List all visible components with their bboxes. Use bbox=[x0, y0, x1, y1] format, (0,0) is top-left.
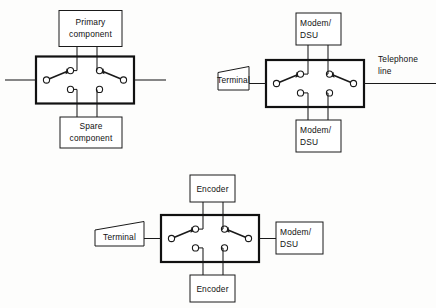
figure-container: Primary component bbox=[0, 0, 436, 308]
telephone-line-label-line1: Telephone bbox=[378, 54, 418, 64]
modem-dsu-top-label-line2: DSU bbox=[300, 30, 318, 40]
left-upper-contact-1 bbox=[67, 68, 73, 74]
diagram-encoder: Encoder Terminal Modem/ DSU bbox=[95, 175, 323, 302]
left-lower-contact-2 bbox=[297, 90, 303, 96]
left-lower-contact-1 bbox=[67, 86, 73, 92]
modem-dsu-top-label-line1: Modem/ bbox=[300, 18, 332, 28]
left-lower-contact-3 bbox=[192, 245, 198, 251]
spare-component-label-line2: component bbox=[70, 133, 113, 143]
left-switch-pivot-2 bbox=[273, 80, 279, 86]
right-switch-pivot-2 bbox=[350, 80, 356, 86]
right-switch-pivot-1 bbox=[120, 77, 126, 83]
transfer-switch-enclosure-3 bbox=[161, 215, 259, 262]
telephone-line-label-line2: line bbox=[378, 66, 392, 76]
modem-dsu-right-label-line2: DSU bbox=[280, 239, 298, 249]
diagram-primary-spare: Primary component bbox=[5, 11, 166, 149]
transfer-switch-enclosure-2 bbox=[266, 60, 364, 107]
primary-component-label-line2: component bbox=[69, 29, 112, 39]
diagram-modem-dsu: Modem/ DSU Terminal Telephone line bbox=[217, 13, 436, 152]
modem-dsu-right-label-line1: Modem/ bbox=[280, 227, 312, 237]
terminal-label-3: Terminal bbox=[103, 232, 136, 242]
left-upper-contact-2 bbox=[297, 71, 303, 77]
modem-dsu-bottom-label-line1: Modem/ bbox=[300, 125, 332, 135]
transfer-switch-enclosure-1 bbox=[36, 57, 134, 104]
encoder-bottom-label: Encoder bbox=[196, 284, 228, 294]
transfer-switch-diagram: Primary component bbox=[0, 0, 436, 308]
left-upper-contact-3 bbox=[192, 226, 198, 232]
left-switch-pivot-3 bbox=[168, 235, 174, 241]
primary-component-label-line1: Primary bbox=[76, 17, 107, 27]
spare-component-label-line1: Spare bbox=[79, 121, 102, 131]
left-switch-pivot-1 bbox=[43, 77, 49, 83]
modem-dsu-bottom-label-line2: DSU bbox=[300, 137, 318, 147]
encoder-top-label: Encoder bbox=[196, 184, 228, 194]
terminal-label-2: Terminal bbox=[217, 75, 250, 85]
right-switch-pivot-3 bbox=[245, 235, 251, 241]
